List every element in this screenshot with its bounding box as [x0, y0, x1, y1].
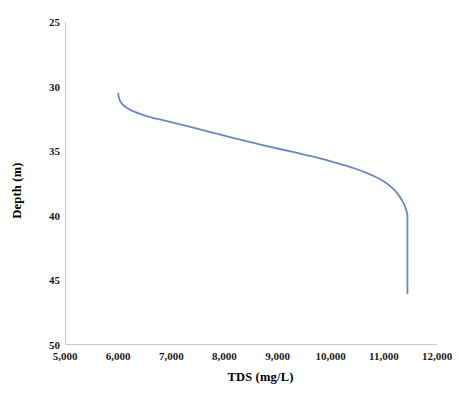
y-tick-label: 50: [49, 340, 60, 351]
x-tick-label: 6,000: [106, 351, 131, 362]
tds-depth-chart: 253035404550 Depth (m) 5,0006,0007,0008,…: [0, 0, 459, 399]
x-axis-tick-labels: 5,0006,0007,0008,0009,00010,00011,00012,…: [0, 351, 459, 367]
x-axis-title: TDS (mg/L): [0, 370, 459, 385]
series-line-tds-profile: [66, 22, 438, 345]
y-tick-label: 35: [49, 146, 60, 157]
plot-area: [65, 22, 437, 345]
x-tick-label: 12,000: [422, 351, 452, 362]
y-tick-label: 25: [49, 17, 60, 28]
y-axis-title: Depth (m): [10, 136, 25, 246]
y-tick-label: 45: [49, 275, 60, 286]
x-tick-label: 9,000: [265, 351, 290, 362]
y-tick-label: 30: [49, 81, 60, 92]
x-tick-label: 11,000: [369, 351, 399, 362]
x-tick-label: 10,000: [316, 351, 346, 362]
x-tick-label: 8,000: [212, 351, 237, 362]
y-tick-label: 40: [49, 210, 60, 221]
series-path-tds-profile: [118, 94, 407, 294]
x-tick-label: 7,000: [159, 351, 184, 362]
x-tick-label: 5,000: [53, 351, 78, 362]
